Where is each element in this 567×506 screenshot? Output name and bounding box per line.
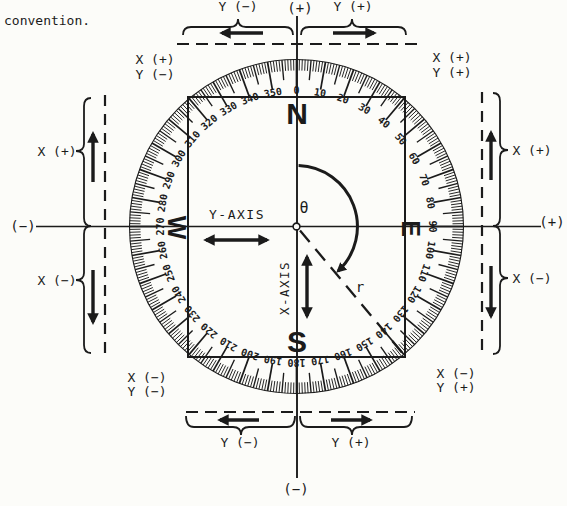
theta-arc-arrow (299, 166, 358, 272)
dial-tick (135, 265, 154, 270)
dial-tick (381, 347, 393, 363)
dial-tick (386, 99, 404, 120)
dial-degree-label: 280 (156, 193, 170, 213)
dial-tick (427, 312, 436, 318)
dial-tick (400, 330, 414, 344)
cardinal-north: N (286, 97, 308, 130)
dial-degree-label: 290 (160, 170, 177, 191)
dial-tick (452, 237, 463, 238)
dial-degree-label: 330 (218, 99, 239, 118)
dial-tick (316, 61, 317, 72)
dial-tick (329, 379, 331, 390)
dial-tick (423, 128, 432, 135)
dial-tick (282, 60, 284, 80)
x-axis-label: X-AXIS (277, 261, 292, 315)
dial-tick (130, 243, 141, 244)
dial-tick (130, 239, 150, 241)
cardinal-west: W (163, 216, 191, 240)
dial-tick (130, 212, 150, 214)
axis-end-right-sign: (+) (539, 214, 564, 230)
dial-tick (251, 377, 254, 388)
dial-degree-label: 250 (160, 263, 177, 284)
dial-tick (288, 382, 289, 393)
dial-tick (451, 251, 462, 253)
dial-tick (134, 262, 145, 265)
top-left-sign-label: Y (−) (218, 0, 257, 14)
dial-tick (427, 136, 436, 142)
dial-degree-label: 120 (405, 284, 424, 305)
dial-tick (449, 189, 460, 192)
dial-tick (135, 183, 154, 188)
dial-tick (176, 335, 184, 343)
dial-degree-label: 310 (182, 129, 202, 150)
dial-tick (452, 218, 463, 219)
dial-tick (133, 259, 144, 261)
dial-tick (345, 375, 348, 385)
dial-tick (245, 375, 248, 385)
dial-tick (335, 65, 340, 84)
dial-tick (452, 209, 463, 210)
dial-tick (160, 311, 176, 323)
dial-tick (321, 381, 323, 392)
dial-tick (172, 331, 180, 338)
dial-tick (133, 195, 144, 197)
dial-degree-label: 300 (169, 148, 188, 169)
dial-tick (178, 330, 192, 344)
quadrant-ll-x-sign: X (−) (127, 370, 166, 385)
dial-degree-label: 70 (417, 172, 431, 187)
dial-degree-label: 20 (335, 91, 350, 105)
dial-tick (443, 212, 463, 214)
dial-tick (390, 351, 397, 360)
dial-tick (321, 363, 326, 391)
dial-tick (326, 380, 328, 391)
dial-tick (449, 192, 460, 194)
axis-end-top-sign: (+) (287, 0, 312, 16)
dial-tick (417, 131, 433, 143)
dial-tick (134, 189, 145, 192)
dial-tick (181, 106, 189, 114)
dial-tick (446, 272, 457, 275)
dial-tick (248, 67, 251, 78)
dial-tick (171, 329, 179, 336)
dial-tick (340, 66, 343, 77)
dial-tick (449, 259, 460, 261)
dial-tick (321, 62, 323, 73)
dial-degree-label: 60 (407, 151, 423, 167)
dial-tick (285, 382, 286, 393)
dial-tick (245, 68, 248, 78)
quadrant-ll-y-sign: Y (−) (127, 384, 166, 399)
dial-tick (189, 99, 207, 120)
quadrant-lr-y-sign: Y (+) (436, 380, 475, 395)
dial-tick (403, 119, 424, 137)
dial-tick (288, 60, 289, 71)
dial-tick (405, 339, 413, 347)
top-right-sign-label: Y (+) (333, 0, 372, 14)
dial-tick (450, 256, 461, 258)
dial-tick (409, 111, 417, 119)
dial-degree-label: 150 (354, 335, 375, 354)
dial-tick (253, 65, 258, 84)
dial-tick (307, 60, 308, 71)
dial-tick (379, 85, 385, 94)
dial-tick (131, 248, 142, 250)
dial-degree-label: 100 (423, 240, 437, 260)
dial-tick (189, 333, 207, 354)
dial-tick (262, 63, 264, 74)
dial-tick (411, 113, 419, 121)
dial-tick (451, 203, 462, 205)
dial-degree-label: 80 (424, 196, 437, 210)
dial-tick (447, 181, 458, 184)
dial-tick (340, 377, 343, 388)
dial-tick (326, 63, 328, 74)
dial-tick (334, 65, 337, 76)
dial-tick (137, 178, 148, 181)
dial-tick (270, 381, 272, 392)
dial-tick (426, 314, 435, 320)
dial-tick (256, 378, 259, 389)
dial-degree-label: 340 (240, 90, 261, 107)
dial-tick (133, 192, 144, 194)
dial-tick (400, 108, 414, 122)
axis-end-left-sign: (−) (10, 218, 35, 234)
dial-tick (445, 175, 455, 178)
dial-tick (251, 66, 254, 77)
